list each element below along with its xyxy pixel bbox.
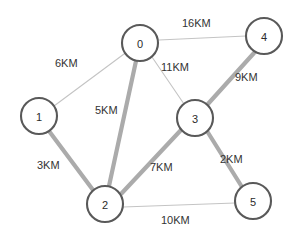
graph-edge-0-4: [159, 36, 246, 40]
edges-layer: [49, 36, 254, 207]
node-label-5: 5: [250, 196, 256, 208]
graph-diagram: 012345 16KM6KM11KM5KM9KM3KM7KM2KM10KM: [0, 0, 302, 240]
graph-node-3: 3: [177, 100, 213, 136]
node-label-4: 4: [261, 31, 267, 43]
node-label-0: 0: [137, 38, 143, 50]
node-label-1: 1: [36, 111, 42, 123]
graph-edge-2-5: [123, 203, 235, 207]
graph-canvas: 012345: [0, 0, 302, 240]
nodes-layer: 012345: [21, 18, 282, 222]
edge-weight-label-0-4: 16KM: [182, 17, 211, 30]
graph-node-0: 0: [122, 25, 158, 61]
edge-weight-label-3-4: 9KM: [235, 71, 258, 84]
edge-weight-label-0-3: 11KM: [161, 61, 189, 74]
edge-weight-label-2-5: 10KM: [161, 214, 190, 227]
graph-node-4: 4: [246, 18, 282, 54]
edge-weight-label-2-3: 7KM: [150, 161, 173, 174]
graph-node-5: 5: [235, 183, 271, 219]
edge-weight-label-3-5: 2KM: [220, 153, 243, 166]
edge-weight-label-0-2: 5KM: [95, 104, 118, 117]
edge-weight-label-1-2: 3KM: [37, 159, 60, 172]
node-label-2: 2: [102, 199, 108, 211]
graph-node-2: 2: [87, 186, 123, 222]
node-label-3: 3: [192, 113, 198, 125]
graph-edge-0-2: [109, 61, 136, 186]
edge-weight-label-0-1: 6KM: [55, 57, 78, 70]
graph-node-1: 1: [21, 98, 57, 134]
